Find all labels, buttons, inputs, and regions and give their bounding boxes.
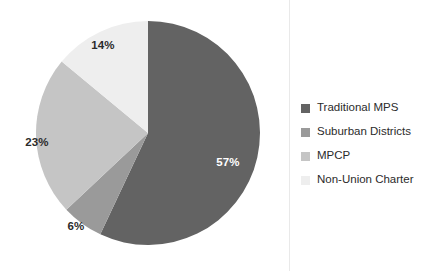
pie-slice-data-label: 14% bbox=[91, 39, 114, 51]
pie-plot-area: 57%6%23%14% bbox=[0, 0, 289, 271]
legend-item-label: Non-Union Charter bbox=[317, 174, 414, 186]
legend-swatch-icon bbox=[301, 104, 310, 113]
legend-swatch-icon bbox=[301, 152, 310, 161]
pie-slice-group bbox=[36, 21, 260, 245]
legend-item-label: Traditional MPS bbox=[317, 102, 398, 114]
legend-item[interactable]: MPCP bbox=[301, 144, 433, 168]
legend-swatch-icon bbox=[301, 128, 310, 137]
pie-svg bbox=[36, 21, 260, 245]
pie-slice-data-label: 6% bbox=[68, 220, 85, 232]
legend-item[interactable]: Traditional MPS bbox=[301, 96, 433, 120]
legend-item[interactable]: Suburban Districts bbox=[301, 120, 433, 144]
legend-item-label: Suburban Districts bbox=[317, 126, 411, 138]
pie-slice-data-label: 23% bbox=[25, 136, 48, 148]
legend-swatch-icon bbox=[301, 176, 310, 185]
pie-slice-data-label: 57% bbox=[216, 156, 239, 168]
plot-area-divider bbox=[289, 0, 290, 271]
chart-legend: Traditional MPSSuburban DistrictsMPCPNon… bbox=[301, 96, 433, 192]
legend-item[interactable]: Non-Union Charter bbox=[301, 168, 433, 192]
pie-chart-figure: 57%6%23%14% Traditional MPSSuburban Dist… bbox=[0, 0, 436, 271]
legend-item-label: MPCP bbox=[317, 150, 350, 162]
